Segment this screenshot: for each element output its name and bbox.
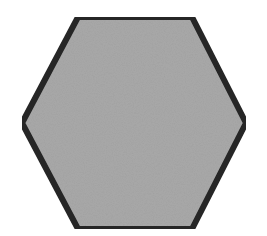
hexagon-figure xyxy=(0,0,267,236)
diagram-canvas xyxy=(0,0,267,236)
hexagon-shape xyxy=(22,17,246,229)
